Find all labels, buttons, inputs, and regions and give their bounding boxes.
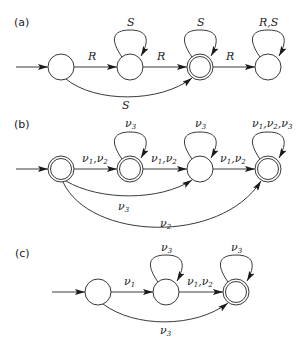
automata-diagram: (a) R S R S R R,S S (b) (0, 0, 304, 351)
state-a0 (48, 54, 74, 80)
edge-label-b0-b3: ν2 (160, 217, 172, 231)
edge-label-a3-loop: R,S (258, 16, 279, 29)
edge-a0-a2 (66, 78, 192, 97)
state-a3 (255, 54, 281, 80)
edge-label-a0-a2: S (122, 99, 130, 112)
state-b3-accepting (255, 156, 281, 182)
panel-c: (c) ν1 ν3 ν1,ν2 ν3 ν3 (15, 241, 252, 338)
edge-label-b1-loop: ν3 (125, 117, 137, 131)
state-b0-accepting (48, 156, 74, 182)
edge-label-a2-loop: S (197, 16, 205, 29)
state-b2 (187, 156, 213, 182)
state-b1-accepting (117, 156, 143, 182)
state-c1 (153, 279, 179, 305)
edge-label-c0-c1: ν1 (124, 275, 135, 289)
panel-a: (a) R S R S R R,S S (14, 16, 284, 112)
edge-label-b1-b2: ν1,ν2 (151, 152, 177, 166)
edge-label-b3-loop: ν1,ν2,ν3 (252, 117, 293, 131)
edge-label-b0-b2: ν3 (118, 200, 130, 214)
edge-label-b2-b3: ν1,ν2 (220, 152, 246, 166)
state-c0 (85, 279, 111, 305)
loop-a3 (252, 30, 284, 57)
loop-a1 (114, 30, 146, 57)
state-a1 (117, 54, 143, 80)
loop-b1 (114, 132, 146, 159)
edge-label-a2-a3: R (225, 50, 234, 63)
panel-label-b: (b) (14, 118, 30, 131)
edge-label-c1-c2: ν1,ν2 (187, 275, 213, 289)
edge-label-a1-a2: R (156, 50, 165, 63)
edge-label-a1-loop: S (127, 16, 135, 29)
state-a2-accepting (187, 54, 213, 80)
edge-label-c1-loop: ν3 (161, 241, 173, 255)
panel-label-a: (a) (14, 16, 29, 29)
loop-c2 (220, 255, 252, 282)
loop-a2 (184, 30, 216, 57)
edge-c0-c2 (103, 303, 228, 322)
loop-b2 (184, 132, 216, 159)
edge-label-b2-loop: ν3 (195, 117, 207, 131)
edge-label-c0-c2: ν3 (160, 324, 172, 338)
panel-label-c: (c) (15, 247, 30, 260)
loop-c1 (150, 255, 182, 282)
loop-b3 (252, 132, 284, 159)
panel-b: (b) ν1,ν2 ν3 ν1,ν2 ν3 ν1,ν2 ν1,ν2,ν3 ν3 … (14, 117, 293, 231)
state-c2-accepting (223, 279, 249, 305)
edge-label-a0-a1: R (87, 50, 96, 63)
edge-label-c2-loop: ν3 (231, 241, 243, 255)
edge-label-b0-b1: ν1,ν2 (82, 152, 108, 166)
